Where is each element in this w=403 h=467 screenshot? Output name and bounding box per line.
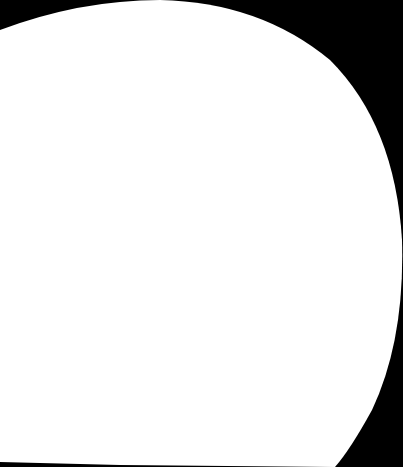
white-circle-shape: [0, 0, 403, 467]
canvas: [0, 0, 403, 467]
